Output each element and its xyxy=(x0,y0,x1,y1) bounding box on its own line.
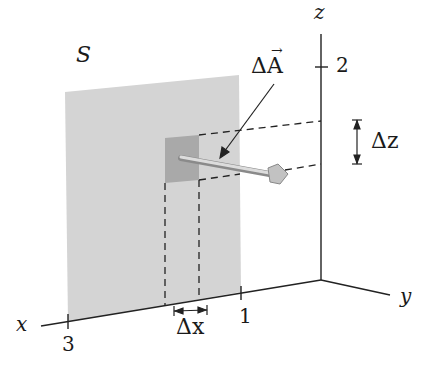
surface-label: S xyxy=(76,44,91,66)
x-tick-label-3: 3 xyxy=(62,334,75,354)
diagram-canvas: S ΔA → Δz Δx z y x 2 3 1 xyxy=(0,0,433,366)
surface-s xyxy=(65,75,241,322)
x-axis-label: x xyxy=(16,314,27,334)
x-tick-label-1: 1 xyxy=(239,306,252,326)
dz-label: Δz xyxy=(371,130,398,152)
y-axis xyxy=(321,280,390,295)
vector-label: ΔA xyxy=(251,55,283,77)
y-axis-label: y xyxy=(400,286,411,306)
z-tick-label-2: 2 xyxy=(336,55,349,75)
vector-arrow-accent: → xyxy=(271,43,283,57)
dx-label: Δx xyxy=(176,316,204,338)
dz-bracket xyxy=(352,120,362,164)
z-axis-label: z xyxy=(314,2,325,22)
diagram-graphics xyxy=(0,0,433,366)
